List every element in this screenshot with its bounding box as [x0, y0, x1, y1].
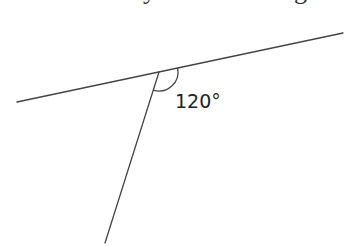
cropped-letter-g: g — [294, 0, 307, 5]
angle-label: 120° — [175, 90, 221, 112]
transversal-line — [105, 72, 159, 243]
cropped-letter-y: y — [143, 0, 156, 5]
cropped-heading-fragments: y g — [143, 0, 307, 5]
diagram-canvas: y g 120° — [0, 0, 355, 246]
angle-diagram: y g 120° — [0, 0, 355, 246]
